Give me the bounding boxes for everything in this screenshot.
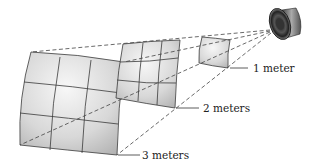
label-1m: 1 meter xyxy=(230,62,296,74)
speaker-icon xyxy=(266,6,301,43)
svg-text:2 meters: 2 meters xyxy=(203,102,250,114)
label-2m: 2 meters xyxy=(176,102,250,114)
surface-2m xyxy=(116,40,180,108)
label-3m: 3 meters xyxy=(118,149,189,161)
inverse-square-diagram: 1 meter 2 meters 3 meters xyxy=(0,0,315,165)
surface-3m xyxy=(20,52,124,155)
svg-text:3 meters: 3 meters xyxy=(142,149,189,161)
svg-text:1 meter: 1 meter xyxy=(253,62,296,74)
